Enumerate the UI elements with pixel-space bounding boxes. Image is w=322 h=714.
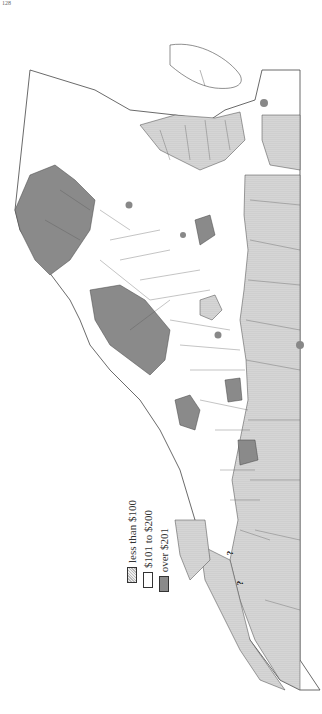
legend-swatch-blank <box>143 572 153 588</box>
city-dot-danville <box>296 341 304 349</box>
city-dot-norfolk <box>260 99 268 107</box>
legend-label: over $201 <box>158 528 170 572</box>
legend-swatch-solid <box>159 576 169 592</box>
unknown-marker-buchanan: ? <box>225 551 235 556</box>
legend-swatch-dotted <box>127 567 137 583</box>
legend-item-mid: $101 to $200 <box>142 510 154 588</box>
legend-label: less than $100 <box>126 500 138 563</box>
city-dot-lynchburg <box>215 332 222 339</box>
legend-item-low: less than $100 <box>126 500 138 583</box>
eastern-shore <box>170 44 241 88</box>
roanoke-high <box>225 378 242 402</box>
unknown-marker-dickenson: ? <box>235 581 245 586</box>
city-dot-richmond <box>180 232 186 238</box>
city-dot-fredericksburg <box>126 202 133 209</box>
legend-label: $101 to $200 <box>142 510 154 568</box>
legend-item-high: over $201 <box>158 528 170 592</box>
map-legend: less than $100 $101 to $200 over $201 <box>118 500 178 640</box>
